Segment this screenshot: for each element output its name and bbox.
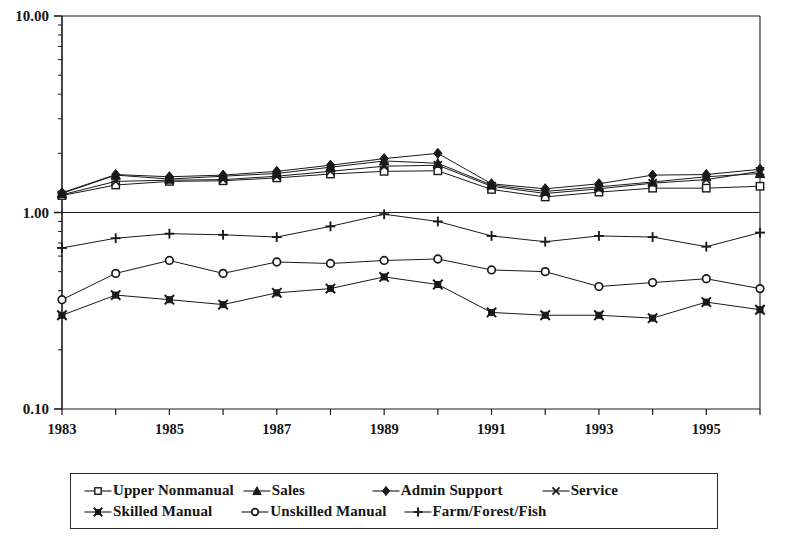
x-axis-tick-label: 1993: [584, 421, 613, 437]
series-farm-forest-fish: [57, 209, 765, 253]
line-chart-plot: 10.001.000.10 19831985198719891991199319…: [0, 0, 794, 460]
legend-label: Upper Nonmanual: [113, 482, 234, 499]
chart-legend: Upper NonmanualSalesAdmin SupportService…: [70, 473, 718, 529]
chart-series-layer: [57, 148, 765, 323]
legend-item-sales[interactable]: Sales: [242, 482, 305, 499]
x-axis-tick-label: 1989: [370, 421, 399, 437]
legend-item-service[interactable]: Service: [541, 482, 618, 499]
legend-marker-filled-triangle-icon: [242, 484, 272, 498]
legend-label: Farm/Forest/Fish: [433, 503, 547, 520]
legend-row-primary: Upper NonmanualSalesAdmin SupportService: [83, 480, 707, 501]
y-axis-tick-label: 10.00: [15, 8, 49, 24]
legend-marker-filled-diamond-icon: [371, 484, 401, 498]
chart-axes: [54, 16, 760, 415]
legend-item-farm-forest-fish[interactable]: Farm/Forest/Fish: [403, 503, 547, 520]
legend-key-swatch: [83, 484, 113, 498]
series-service: [58, 161, 764, 199]
y-axis-tick-label: 0.10: [23, 401, 49, 417]
legend-marker-open-circle-icon: [240, 505, 270, 519]
x-axis-tick-labels: 1983198519871989199119931995: [48, 421, 721, 437]
legend-item-unskilled-manual[interactable]: Unskilled Manual: [240, 503, 386, 520]
series-admin-support: [58, 148, 764, 198]
legend-marker-open-square-icon: [83, 484, 113, 498]
legend-key-swatch: [83, 505, 113, 519]
series-unskilled-manual: [58, 255, 764, 303]
x-axis-tick-label: 1987: [262, 421, 291, 437]
legend-label: Admin Support: [401, 482, 503, 499]
legend-key-swatch: [541, 484, 571, 498]
legend-marker-plus-icon: [403, 505, 433, 519]
legend-marker-filled-x-square-icon: [83, 505, 113, 519]
x-axis-tick-label: 1995: [692, 421, 721, 437]
legend-item-admin-support[interactable]: Admin Support: [371, 482, 503, 499]
legend-item-upper-nonmanual[interactable]: Upper Nonmanual: [83, 482, 234, 499]
legend-marker-cross-x-icon: [541, 484, 571, 498]
series-upper-nonmanual: [58, 167, 763, 201]
legend-row-secondary: Skilled ManualUnskilled ManualFarm/Fores…: [83, 501, 707, 522]
legend-label: Sales: [272, 482, 305, 499]
legend-label: Service: [571, 482, 618, 499]
legend-key-swatch: [371, 484, 401, 498]
chart-figure: 10.001.000.10 19831985198719891991199319…: [0, 0, 794, 538]
legend-key-swatch: [403, 505, 433, 519]
series-skilled-manual: [57, 272, 764, 323]
y-axis-tick-labels: 10.001.000.10: [15, 8, 49, 417]
legend-label: Unskilled Manual: [270, 503, 386, 520]
legend-label: Skilled Manual: [113, 503, 212, 520]
x-axis-tick-label: 1991: [477, 421, 506, 437]
y-axis-tick-label: 1.00: [23, 205, 49, 221]
x-axis-tick-label: 1983: [48, 421, 77, 437]
legend-key-swatch: [242, 484, 272, 498]
x-axis-tick-label: 1985: [155, 421, 184, 437]
legend-key-swatch: [240, 505, 270, 519]
legend-item-skilled-manual[interactable]: Skilled Manual: [83, 503, 212, 520]
